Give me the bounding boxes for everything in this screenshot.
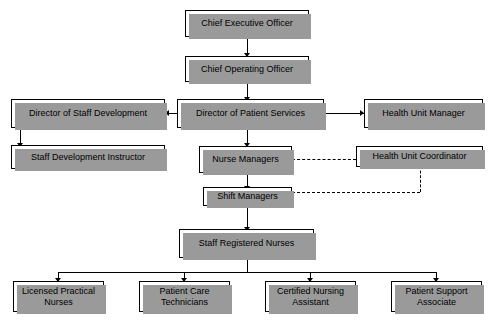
node-label: Chief Executive Officer: [199, 18, 294, 29]
connector-nursemgrs-huc-dashed: [292, 159, 356, 160]
node-patient-care-technicians[interactable]: Patient Care Technicians: [139, 281, 230, 312]
node-label: Shift Managers: [215, 191, 280, 202]
node-label: Certified Nursing Assistant: [275, 286, 346, 308]
node-staff-registered-nurses[interactable]: Staff Registered Nurses: [179, 229, 314, 258]
node-health-unit-coordinator[interactable]: Health Unit Coordinator: [356, 146, 483, 167]
org-chart: Chief Executive Officer Chief Operating …: [0, 0, 495, 325]
node-label: Director of Staff Development: [27, 108, 149, 119]
node-label: Patient Support Associate: [403, 286, 469, 308]
node-label: Director of Patient Services: [194, 108, 307, 119]
node-chief-operating-officer[interactable]: Chief Operating Officer: [185, 56, 309, 82]
node-shift-managers[interactable]: Shift Managers: [203, 187, 292, 206]
node-patient-support-associate[interactable]: Patient Support Associate: [391, 281, 482, 312]
node-label: Patient Care Technicians: [157, 286, 211, 308]
connector-bottom-bus: [58, 272, 436, 273]
node-chief-executive-officer[interactable]: Chief Executive Officer: [185, 10, 309, 37]
connector-shiftmgrs-huc-dashed-h: [282, 192, 420, 193]
node-label: Staff Registered Nurses: [197, 238, 296, 249]
node-director-of-patient-services[interactable]: Director of Patient Services: [177, 99, 324, 128]
node-label: Chief Operating Officer: [199, 64, 295, 75]
connector-dps-hum: [324, 113, 364, 114]
node-label: Nurse Managers: [210, 154, 281, 165]
node-label: Licensed Practical Nurses: [20, 286, 97, 308]
node-director-of-staff-development[interactable]: Director of Staff Development: [11, 99, 165, 128]
node-licensed-practical-nurses[interactable]: Licensed Practical Nurses: [13, 281, 104, 312]
node-label: Staff Development Instructor: [29, 152, 147, 163]
node-label: Health Unit Coordinator: [370, 151, 468, 162]
node-certified-nursing-assistant[interactable]: Certified Nursing Assistant: [265, 281, 356, 312]
node-label: Health Unit Manager: [380, 108, 467, 119]
node-staff-development-instructor[interactable]: Staff Development Instructor: [11, 145, 165, 169]
connector-srn-bus-drop: [247, 258, 248, 272]
node-nurse-managers[interactable]: Nurse Managers: [199, 146, 292, 173]
node-health-unit-manager[interactable]: Health Unit Manager: [364, 99, 483, 128]
connector-shiftmgrs-huc-dashed-v: [420, 166, 421, 192]
connector-shiftmgrs-srn: [247, 205, 248, 229]
